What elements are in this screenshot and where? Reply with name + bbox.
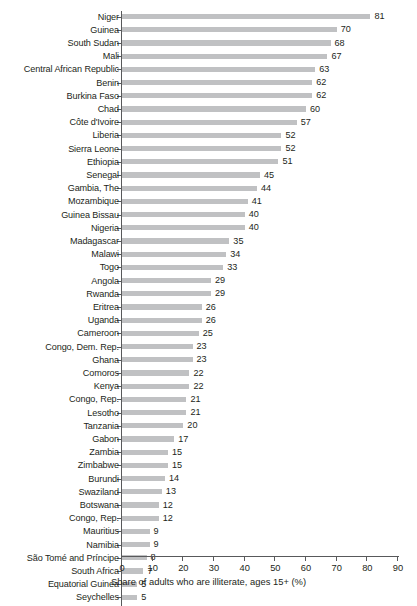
bar-value-label: 26: [206, 301, 216, 314]
bar-row: Chad60: [0, 103, 417, 116]
bar-row: Congo, Rep.21: [0, 393, 417, 406]
bar-value-label: 25: [203, 327, 213, 340]
bar-value-label: 35: [233, 235, 243, 248]
bar: [122, 106, 306, 111]
bar-category-label: Tanzania: [83, 420, 119, 433]
bar-row: Togo33: [0, 261, 417, 274]
bar-row: Gambia, The44: [0, 182, 417, 195]
bar-category-label: Malawi: [91, 248, 119, 261]
bar-value-label: 63: [319, 63, 329, 76]
bar-category-label: Ghana: [92, 354, 119, 367]
bar: [122, 54, 327, 59]
bar-row: Burundi14: [0, 473, 417, 486]
bar-row: Cameroon25: [0, 327, 417, 340]
bar-value-label: 67: [331, 50, 341, 63]
bar-row: Swaziland13: [0, 486, 417, 499]
bar: [122, 516, 159, 521]
bar-category-label: Congo, Rep.: [69, 393, 119, 406]
bar: [122, 357, 193, 362]
bar-value-label: 13: [166, 485, 176, 498]
bar-row: Malawi34: [0, 248, 417, 261]
x-axis-tick: [152, 557, 153, 561]
bar-category-label: Rwanda: [86, 288, 119, 301]
bar: [122, 120, 297, 125]
x-axis-tick: [305, 557, 306, 561]
x-axis-tick: [182, 557, 183, 561]
bar-row: Tanzania20: [0, 420, 417, 433]
bar: [122, 384, 189, 389]
bar-value-label: 57: [301, 116, 311, 129]
bar-value-label: 68: [335, 37, 345, 50]
bar-category-label: Congo, Rep.: [69, 512, 119, 525]
bar-category-label: Liberia: [92, 129, 119, 142]
bar-value-label: 40: [249, 221, 259, 234]
bar-row: Liberia52: [0, 129, 417, 142]
bar-row: Mali67: [0, 50, 417, 63]
bar-value-label: 21: [190, 406, 200, 419]
bar: [122, 199, 248, 204]
bar-value-label: 62: [316, 89, 326, 102]
bar-row: Namibia9: [0, 539, 417, 552]
bar-category-label: Cameroon: [77, 327, 119, 340]
bar-row: Burkina Faso62: [0, 90, 417, 103]
x-axis-tick-label: 90: [383, 562, 413, 574]
bar-category-label: Gabon: [92, 433, 119, 446]
bar-category-label: Swaziland: [78, 486, 119, 499]
bar: [122, 291, 211, 296]
bar-row: Comoros22: [0, 367, 417, 380]
bar-value-label: 52: [285, 142, 295, 155]
x-axis-tick-label: 10: [138, 562, 168, 574]
bar: [122, 423, 183, 428]
bar-category-label: Mozambique: [68, 195, 119, 208]
bar-value-label: 29: [215, 274, 225, 287]
bar-value-label: 62: [316, 76, 326, 89]
bar-row: Congo, Rep.12: [0, 512, 417, 525]
bar: [122, 476, 165, 481]
bar: [122, 225, 245, 230]
bar-row: Côte d'Ivoire57: [0, 116, 417, 129]
x-axis-tick: [244, 557, 245, 561]
bar-value-label: 17: [178, 433, 188, 446]
bar-value-label: 9: [154, 525, 159, 538]
bar-row: Uganda26: [0, 314, 417, 327]
bar-row: Guinea70: [0, 24, 417, 37]
bar-category-label: Seychelles: [76, 591, 119, 604]
bar: [122, 595, 137, 600]
bar: [122, 93, 312, 98]
bar-category-label: Kenya: [94, 380, 119, 393]
bar-category-label: Togo: [100, 261, 119, 274]
bar-value-label: 44: [261, 182, 271, 195]
x-axis-tick: [336, 557, 337, 561]
bar-category-label: Mauritius: [83, 525, 119, 538]
bar: [122, 502, 159, 507]
bar-value-label: 45: [264, 169, 274, 182]
bar-value-label: 15: [172, 459, 182, 472]
bar: [122, 542, 150, 547]
bar-category-label: Congo, Dem. Rep.: [45, 341, 119, 354]
bar: [122, 27, 337, 32]
bar-row: Seychelles5: [0, 591, 417, 604]
bar-row: Ethiopia51: [0, 156, 417, 169]
bar-category-label: Ethiopia: [87, 156, 119, 169]
bar-category-label: Madagascar: [70, 235, 119, 248]
bar-row: Angola29: [0, 275, 417, 288]
bar-row: Kenya22: [0, 380, 417, 393]
bar: [122, 212, 245, 217]
bar-category-label: Eritrea: [93, 301, 119, 314]
bar: [122, 80, 312, 85]
bar: [122, 410, 186, 415]
bar: [122, 397, 186, 402]
bar-row: Guinea Bissau40: [0, 209, 417, 222]
bar-row: Senegal45: [0, 169, 417, 182]
bar-category-label: Zimbabwe: [78, 459, 119, 472]
x-axis-tick-label: 0: [107, 562, 137, 574]
bar-row: Ghana23: [0, 354, 417, 367]
bar-category-label: Uganda: [88, 314, 119, 327]
x-axis-tick-label: 70: [322, 562, 352, 574]
bar-value-label: 70: [341, 23, 351, 36]
bar: [122, 318, 202, 323]
bar-row: Central African Republic63: [0, 63, 417, 76]
bar: [122, 436, 174, 441]
